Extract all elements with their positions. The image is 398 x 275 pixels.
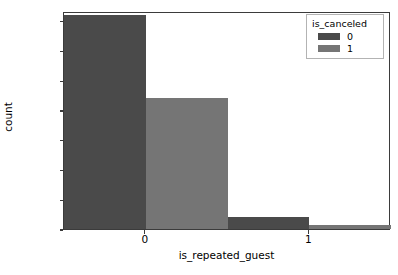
x-tick-mark: [144, 230, 145, 234]
legend-entry: 0: [312, 31, 378, 42]
x-tick-label: 1: [278, 234, 338, 245]
bar: [309, 225, 391, 229]
legend-entries: 01: [312, 31, 378, 54]
legend: is_canceled 01: [306, 14, 384, 59]
legend-title: is_canceled: [312, 18, 378, 29]
legend-entry: 1: [312, 43, 378, 54]
bar: [228, 217, 310, 229]
legend-label: 1: [347, 43, 353, 54]
legend-label: 0: [347, 31, 353, 42]
chart-figure: count 0100002000030000400005000060000700…: [0, 0, 398, 275]
bar: [64, 15, 146, 229]
legend-swatch: [318, 45, 340, 52]
y-axis-label: count: [2, 87, 14, 147]
x-tick-mark: [308, 230, 309, 234]
x-tick-label: 0: [115, 234, 175, 245]
x-axis-label: is_repeated_guest: [63, 249, 390, 261]
bar: [146, 98, 228, 229]
legend-swatch: [318, 33, 340, 40]
